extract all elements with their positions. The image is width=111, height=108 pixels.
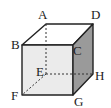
- vertex-label-C: C: [73, 43, 82, 58]
- vertex-label-A: A: [38, 7, 48, 22]
- vertex-label-B: B: [11, 37, 20, 52]
- vertex-label-E: E: [36, 64, 44, 79]
- cube-diagram: A D B C E H F G: [0, 0, 111, 108]
- vertex-label-F: F: [11, 88, 18, 103]
- vertex-label-D: D: [91, 7, 100, 22]
- vertex-label-G: G: [74, 94, 83, 108]
- front-face: [22, 45, 73, 95]
- vertex-label-H: H: [95, 68, 104, 83]
